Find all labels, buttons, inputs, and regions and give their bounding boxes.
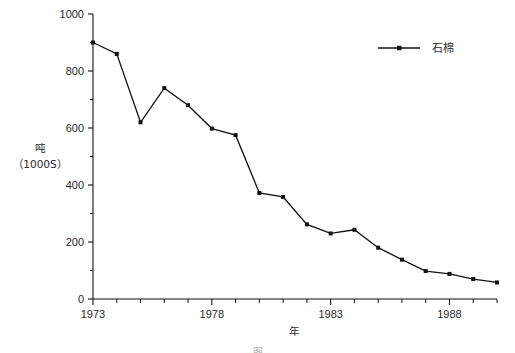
data-point (281, 195, 285, 199)
data-point (234, 133, 238, 137)
x-axis: 1973197819831988 (81, 299, 497, 320)
y-axis-tick-label: 400 (66, 179, 84, 191)
x-axis-tick-label: 1973 (81, 308, 105, 320)
line-chart: 02004006008001000 1973197819831988 石棉 吨 … (0, 0, 515, 353)
data-point (471, 277, 475, 281)
data-point (305, 222, 309, 226)
data-point (115, 52, 119, 56)
x-axis-tick-label: 1978 (200, 308, 224, 320)
y-axis: 02004006008001000 (60, 8, 93, 305)
y-axis-tick-label: 200 (66, 236, 84, 248)
data-point (186, 103, 190, 107)
data-point (139, 120, 143, 124)
legend-marker-swatch (397, 46, 401, 50)
x-axis-title: 年 (289, 325, 299, 337)
data-point (447, 272, 451, 276)
data-point (162, 86, 166, 90)
legend-label: 石棉 (432, 41, 454, 55)
y-axis-tick-label: 1000 (60, 8, 84, 20)
x-axis-tick-label: 1983 (318, 308, 342, 320)
data-point (376, 246, 380, 250)
chart-container: 02004006008001000 1973197819831988 石棉 吨 … (0, 0, 515, 353)
data-point (210, 127, 214, 131)
data-series-group (91, 41, 499, 285)
chart-legend: 石棉 (378, 41, 454, 55)
y-axis-title-line2: （1000S） (13, 158, 66, 170)
data-point (424, 269, 428, 273)
y-axis-tick-label: 800 (66, 65, 84, 77)
y-axis-tick-label: 600 (66, 122, 84, 134)
data-point (495, 280, 499, 284)
data-point (352, 228, 356, 232)
series-line-石棉 (93, 43, 497, 283)
x-axis-tick-label: 1988 (437, 308, 461, 320)
data-point (91, 41, 95, 45)
data-point (400, 258, 404, 262)
data-point (257, 191, 261, 195)
figure-caption: 图 (0, 345, 515, 353)
y-axis-tick-label: 0 (78, 293, 84, 305)
y-axis-title-line1: 吨 (35, 142, 46, 154)
data-point (329, 231, 333, 235)
